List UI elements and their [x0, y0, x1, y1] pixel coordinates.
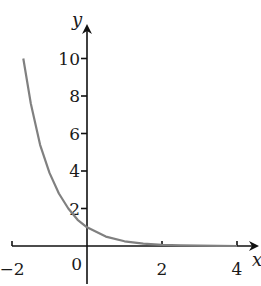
- data-curve: [23, 59, 237, 247]
- exponential-decay-chart: −2024246810 x y: [0, 0, 261, 286]
- x-tick-label: 4: [232, 259, 243, 279]
- y-tick-label: 6: [69, 124, 80, 144]
- x-tick-label: 0: [71, 254, 82, 274]
- x-axis-label: x: [252, 249, 261, 270]
- x-tick-label: 2: [157, 259, 168, 279]
- y-tick-label: 4: [69, 161, 80, 181]
- y-tick-label: 8: [69, 86, 80, 106]
- ticks: −2024246810: [0, 49, 242, 280]
- x-tick-label: −2: [0, 259, 25, 279]
- y-tick-label: 10: [58, 49, 80, 69]
- y-axis-label: y: [71, 9, 83, 30]
